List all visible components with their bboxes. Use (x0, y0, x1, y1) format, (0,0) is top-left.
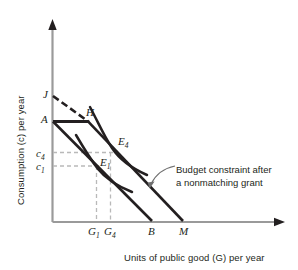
axis-tick-label-G1: G1 (88, 226, 100, 240)
axis-tick-label-G4: G4 (104, 226, 116, 240)
annotation-text-line-1: Budget constraint after (176, 163, 292, 176)
point-label-E1-subscript: 1 (107, 162, 111, 171)
axis-tick-label-G1-subscript: 1 (96, 231, 100, 240)
point-label-E4-subscript: 4 (125, 141, 129, 150)
axis-tick-label-B: B (148, 226, 155, 237)
point-label-E1: E1 (100, 157, 110, 171)
axis-tick-label-M: M (179, 226, 188, 237)
axis-tick-label-c1-subscript: 1 (41, 166, 45, 175)
annotation-leader-curve (151, 166, 175, 184)
budget-line-JH-dashed (53, 96, 89, 122)
economics-diagram: J A H E4 E1 c4 c1 G1 G4 B M Consumption … (0, 0, 298, 270)
x-axis-arrowhead (274, 218, 285, 226)
axis-tick-label-G4-subscript: 4 (112, 231, 116, 240)
annotation-leader (148, 166, 175, 189)
axis-tick-label-c1: c1 (36, 161, 45, 175)
annotation-text: Budget constraint after a nonmatching gr… (176, 163, 292, 189)
point-label-E4: E4 (118, 136, 128, 150)
point-label-J: J (43, 89, 48, 100)
point-label-A: A (41, 114, 48, 125)
y-axis-title: Consumption (c) per year (15, 95, 26, 205)
x-axis-title: Units of public good (G) per year (124, 252, 265, 263)
point-label-H: H (86, 107, 94, 118)
annotation-text-line-2: a nonmatching grant (176, 176, 292, 189)
y-axis-arrowhead (48, 19, 56, 30)
budget-line-after-grant (53, 96, 183, 221)
